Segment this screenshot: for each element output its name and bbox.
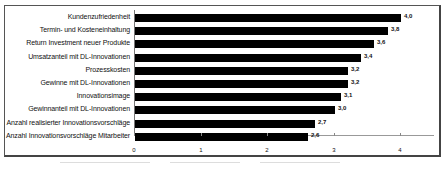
value-label: 3,1 [344,92,352,98]
bar [135,40,374,48]
bar [135,27,388,35]
bar-row: Termin- und Kosteneinhaltung 3,8 [0,25,446,38]
x-tick-label: 1 [196,147,206,153]
bar-row: Anzahl Innovationsvorschläge Mitarbeiter… [0,131,446,144]
bar-row: Umsatzanteil mit DL-Innovationen 3,4 [0,52,446,65]
value-label: 2,7 [318,119,326,125]
bar [135,80,348,88]
category-label: Anzahl Innovationsvorschläge Mitarbeiter [6,132,130,139]
value-label: 3,6 [377,39,385,45]
x-tick-mark [134,133,135,136]
category-label: Return Investment neuer Produkte [26,39,130,46]
bar-row: Innovationsimage 3,1 [0,91,446,104]
category-label: Umsatzanteil mit DL-Innovationen [28,53,130,60]
bar-row: Prozesskosten 3,2 [0,65,446,78]
bar [135,67,348,75]
bar-row: Gewinne mit DL-Innovationen 3,2 [0,78,446,91]
faded-caption [60,160,400,166]
caption-line [260,162,340,163]
caption-line [60,162,150,163]
value-label: 3,8 [391,26,399,32]
category-label: Anzahl realisierter Innovationsvorschläg… [6,119,130,126]
value-label: 3,2 [351,79,359,85]
value-label: 3,4 [364,53,372,59]
bar [135,133,308,141]
value-label: 3,0 [338,105,346,111]
bar-row: Gewinnanteil mit DL-Innovationen 3,0 [0,104,446,117]
category-label: Gewinne mit DL-Innovationen [40,79,130,86]
x-tick-mark [201,133,202,136]
category-label: Gewinnanteil mit DL-Innovationen [28,105,130,112]
x-tick-label: 4 [395,147,405,153]
x-tick-mark [267,133,268,136]
bar-row: Anzahl realisierter Innovationsvorschläg… [0,118,446,131]
bar-row: Return Investment neuer Produkte 3,6 [0,38,446,51]
x-tick-label: 3 [329,147,339,153]
value-label: 3,2 [351,66,359,72]
bar [135,106,335,114]
value-label: 4,0 [404,13,412,19]
x-tick-label: 0 [129,147,139,153]
caption-line [170,162,240,163]
value-label: 2,6 [311,132,319,138]
category-label: Termin- und Kosteneinhaltung [40,26,130,33]
bar [135,120,315,128]
x-tick-mark [334,133,335,136]
x-tick-label: 2 [262,147,272,153]
category-label: Innovationsimage [77,92,130,99]
x-tick-mark [400,133,401,136]
bar-row: Kundenzufriedenheit 4,0 [0,12,446,25]
category-label: Kundenzufriedenheit [68,13,130,20]
bar [135,54,361,62]
bar [135,93,341,101]
bar [135,14,401,22]
category-label: Prozesskosten [85,66,130,73]
